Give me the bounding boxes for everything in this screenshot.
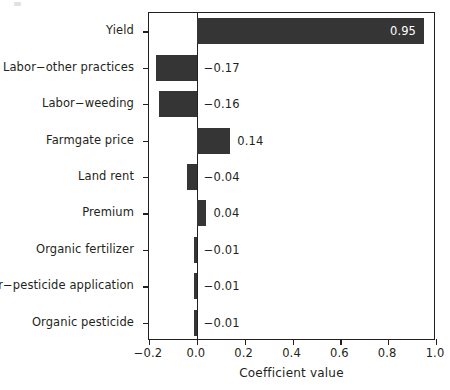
bar-value-label: 0.95: [386, 24, 416, 38]
bar[interactable]: [156, 55, 197, 81]
y-axis-category-label: Labor−weeding: [42, 96, 134, 110]
bar[interactable]: [159, 91, 197, 117]
bar-row: 0.95: [149, 18, 434, 44]
bar-row: 0.04: [149, 200, 434, 226]
bar-row: −0.01: [149, 237, 434, 263]
y-axis-tick: [143, 250, 149, 251]
bar-row: −0.16: [149, 91, 434, 117]
bar[interactable]: [194, 237, 196, 263]
plot-area: 0.95−0.17−0.160.14−0.040.04−0.01−0.01−0.…: [148, 12, 435, 340]
x-axis-tick: [293, 339, 294, 345]
bar-value-label: −0.01: [204, 316, 240, 330]
bar-row: −0.17: [149, 55, 434, 81]
bar[interactable]: [197, 200, 207, 226]
y-axis-category-label: Farmgate price: [46, 133, 134, 147]
y-axis-tick: [143, 104, 149, 105]
y-axis-category-label: Land rent: [78, 169, 134, 183]
bar-value-label: −0.01: [204, 243, 240, 257]
bar-row: −0.01: [149, 310, 434, 336]
bar-value-label: −0.04: [204, 170, 240, 184]
bar-row: −0.01: [149, 273, 434, 299]
bar[interactable]: [194, 310, 196, 336]
y-axis-tick: [143, 286, 149, 287]
bar-value-label: 0.04: [213, 206, 239, 220]
y-axis-tick: [143, 68, 149, 69]
x-axis-tick-label: 0.4: [282, 346, 301, 360]
bar[interactable]: [194, 273, 196, 299]
x-axis-tick-label: −0.2: [134, 346, 162, 360]
y-axis-labels: YieldLabor−other practicesLabor−weedingF…: [0, 12, 142, 340]
bar-value-label: 0.14: [237, 134, 263, 148]
x-axis-tick-label: 1.0: [426, 346, 445, 360]
bar[interactable]: [197, 128, 230, 154]
y-axis-category-label: Yield: [106, 23, 134, 37]
bar-value-label: −0.17: [204, 61, 240, 75]
x-axis-tick-label: 0.2: [234, 346, 253, 360]
bar-value-label: −0.01: [204, 279, 240, 293]
x-axis-tick-labels: −0.20.00.20.40.60.81.0: [148, 346, 435, 364]
figure: YieldLabor−other practicesLabor−weedingF…: [0, 0, 450, 390]
bar-row: 0.14: [149, 128, 434, 154]
x-axis-title: Coefficient value: [148, 366, 435, 380]
y-axis-category-label: Labor−pesticide application: [0, 278, 134, 292]
y-axis-category-label: Premium: [82, 205, 134, 219]
x-axis-tick: [197, 339, 198, 345]
y-axis-category-label: Organic fertilizer: [36, 242, 134, 256]
x-axis-tick-label: 0.8: [378, 346, 397, 360]
y-axis-tick: [143, 323, 149, 324]
y-axis-category-label: Organic pesticide: [32, 315, 134, 329]
y-axis-tick: [143, 213, 149, 214]
bar-value-label: −0.16: [204, 97, 240, 111]
y-axis-tick: [143, 141, 149, 142]
x-axis-tick: [340, 339, 341, 345]
x-axis-tick-label: 0.0: [187, 346, 206, 360]
x-axis-tick: [436, 339, 437, 345]
y-axis-tick: [143, 177, 149, 178]
y-axis-tick: [143, 31, 149, 32]
y-axis-category-label: Labor−other practices: [3, 60, 134, 74]
x-axis-tick-label: 0.6: [330, 346, 349, 360]
x-axis-tick: [388, 339, 389, 345]
x-axis-tick: [245, 339, 246, 345]
x-axis-tick: [149, 339, 150, 345]
scan-artifact-speck: [14, 2, 21, 6]
bar-row: −0.04: [149, 164, 434, 190]
bar[interactable]: [187, 164, 197, 190]
